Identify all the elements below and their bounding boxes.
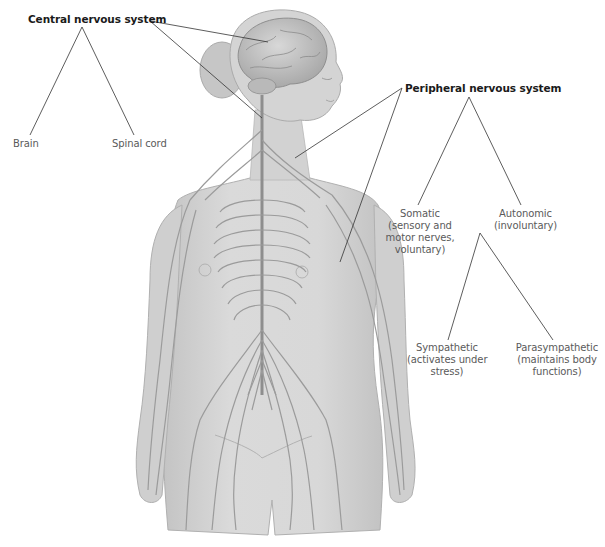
somatic-label: Somatic (sensory and motor nerves, volun… <box>380 208 460 256</box>
parasympathetic-label: Parasympathetic (maintains body function… <box>514 342 600 378</box>
sympathetic-line-3: stress) <box>407 366 487 378</box>
brain-label: Brain <box>13 138 39 150</box>
somatic-line-3: motor nerves, <box>380 232 460 244</box>
autonomic-label: Autonomic (involuntary) <box>488 208 563 232</box>
somatic-line-1: Somatic <box>380 208 460 220</box>
somatic-line-4: voluntary) <box>380 244 460 256</box>
sympathetic-line-1: Sympathetic <box>407 342 487 354</box>
peripheral-nervous-system-label: Peripheral nervous system <box>405 82 561 94</box>
sympathetic-label: Sympathetic (activates under stress) <box>407 342 487 378</box>
parasympathetic-line-3: functions) <box>514 366 600 378</box>
parasympathetic-line-1: Parasympathetic <box>514 342 600 354</box>
somatic-line-2: (sensory and <box>380 220 460 232</box>
central-nervous-system-label: Central nervous system <box>28 13 166 25</box>
autonomic-line-1: Autonomic <box>488 208 563 220</box>
spinal-cord-label: Spinal cord <box>112 138 167 150</box>
sympathetic-line-2: (activates under <box>407 354 487 366</box>
autonomic-line-2: (involuntary) <box>488 220 563 232</box>
nervous-system-diagram: Central nervous system Brain Spinal cord… <box>0 0 605 547</box>
parasympathetic-line-2: (maintains body <box>514 354 600 366</box>
